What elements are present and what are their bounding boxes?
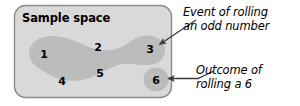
event-callout-text: Event of rolling an odd number	[183, 6, 269, 33]
outcome-callout-line-1: Outcome of	[196, 64, 262, 78]
outcome-label-3: 3	[143, 43, 157, 56]
outcome-callout-text: Outcome of rolling a 6	[196, 64, 262, 91]
outcome-label-5: 5	[93, 67, 107, 80]
outcome-label-6: 6	[149, 74, 163, 87]
outcome-label-4: 4	[55, 75, 69, 88]
outcome-label-1: 1	[37, 48, 51, 61]
sample-space-diagram: Sample space 1 2 3 4 5 6 Event of rollin…	[0, 0, 300, 106]
event-callout-line-2: an odd number	[183, 20, 269, 34]
outcome-label-2: 2	[91, 41, 105, 54]
sample-space-label: Sample space	[22, 11, 110, 25]
event-callout-line-1: Event of rolling	[183, 6, 269, 20]
outcome-callout-line-2: rolling a 6	[196, 78, 262, 92]
